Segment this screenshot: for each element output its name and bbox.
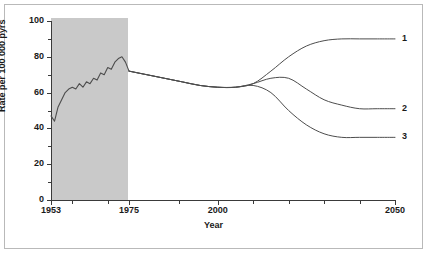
x-axis-line	[51, 200, 396, 201]
y-tick-10	[48, 182, 51, 183]
y-tick-60	[47, 93, 51, 94]
x-tick-2010	[253, 201, 254, 204]
series-label-1: 1	[402, 33, 407, 43]
y-tick-label-0: 0	[0, 194, 44, 204]
x-tick-1959	[72, 201, 73, 204]
x-tick-label-1975: 1975	[116, 205, 142, 215]
x-tick-label-2050: 2050	[382, 205, 408, 215]
y-tick-70	[48, 75, 51, 76]
shaded-observed-region	[51, 18, 128, 200]
y-tick-90	[48, 39, 51, 40]
x-tick-1969	[108, 201, 109, 204]
x-tick-label-1953: 1953	[38, 205, 64, 215]
y-tick-50	[48, 111, 51, 112]
y-tick-label-20: 20	[0, 158, 44, 168]
x-tick-1989	[179, 201, 180, 204]
y-tick-30	[48, 146, 51, 147]
chart-figure: 100806040200 1953197520002050 Rate per 1…	[0, 0, 427, 253]
series-label-2: 2	[402, 103, 407, 113]
y-tick-label-40: 40	[0, 122, 44, 132]
x-tick-2020	[289, 201, 290, 204]
x-tick-label-2000: 2000	[205, 205, 231, 215]
y-axis-line	[51, 21, 52, 201]
y-tick-40	[47, 128, 51, 129]
x-axis-title: Year	[0, 220, 427, 230]
series-label-3: 3	[402, 131, 407, 141]
x-tick-2030	[324, 201, 325, 204]
y-tick-20	[47, 164, 51, 165]
y-tick-100	[47, 21, 51, 22]
x-tick-2040	[360, 201, 361, 204]
y-tick-80	[47, 57, 51, 58]
y-axis-title: Rate per 100 000 pyrs	[0, 19, 7, 112]
